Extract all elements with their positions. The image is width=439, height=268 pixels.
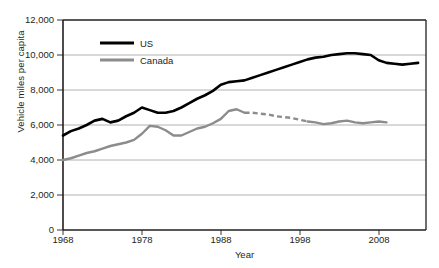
chart-canvas	[0, 0, 439, 268]
legend-swatches	[100, 43, 134, 60]
gridlines	[63, 55, 426, 195]
y-axis-ticks	[57, 20, 63, 230]
x-axis-ticks	[63, 230, 379, 235]
series-canada	[63, 109, 387, 160]
chart-figure: Vehicle miles per capita Year 12,000 10,…	[0, 0, 439, 268]
